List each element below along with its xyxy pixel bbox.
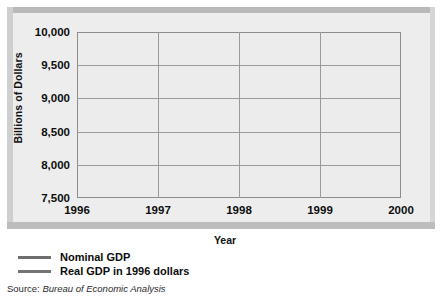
plot-area: 10,0009,5009,0008,5008,0007,500 19961997…: [77, 32, 401, 198]
source-note: Source: Bureau of Economic Analysis: [7, 283, 166, 294]
legend-item-label: Nominal GDP: [60, 251, 130, 263]
x-axis-tick-label: 1998: [209, 204, 269, 216]
x-axis-title: Year: [0, 234, 442, 246]
source-value: Bureau of Economic Analysis: [42, 283, 165, 294]
x-axis-tick-label: 1996: [47, 204, 107, 216]
y-axis-tick-label: 10,000: [0, 26, 70, 38]
x-axis-tick-label: 2000: [371, 204, 431, 216]
frame-bevel-top: [7, 7, 435, 13]
y-axis-tick-label: 9,500: [0, 59, 70, 71]
x-axis-tick-label: 1997: [128, 204, 188, 216]
legend-swatch-icon: [18, 256, 51, 259]
y-axis-tick-label: 8,500: [0, 126, 70, 138]
y-axis-tick-label: 9,000: [0, 92, 70, 104]
legend-item-label: Real GDP in 1996 dollars: [60, 265, 189, 277]
chart-legend: Nominal GDPReal GDP in 1996 dollars: [18, 250, 189, 278]
x-axis-tick-label: 1999: [290, 204, 350, 216]
y-axis-tick-label: 8,000: [0, 159, 70, 171]
y-axis-tick-labels: 10,0009,5009,0008,5008,0007,500: [77, 32, 401, 198]
source-label: Source:: [7, 283, 40, 294]
frame-bevel-bottom: [7, 222, 435, 229]
frame-bevel-right: [430, 7, 435, 229]
legend-swatch-icon: [18, 270, 51, 273]
legend-item: Nominal GDP: [18, 250, 189, 264]
legend-item: Real GDP in 1996 dollars: [18, 264, 189, 278]
y-axis-tick-label: 7,500: [0, 192, 70, 204]
